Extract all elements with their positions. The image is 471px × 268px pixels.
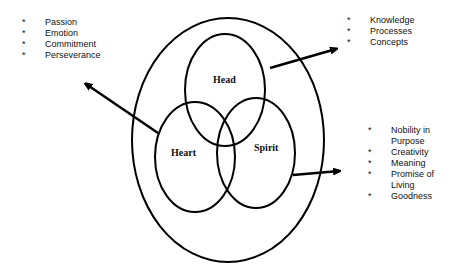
bullet-icon: * <box>368 147 372 158</box>
bullet-icon: * <box>22 50 26 61</box>
bullet-icon: * <box>22 28 26 39</box>
bullet-icon: * <box>347 26 351 37</box>
head-label: Head <box>213 74 236 85</box>
bullet-icon: * <box>368 191 372 202</box>
list-item: *Promise of Living <box>368 169 448 191</box>
list-item: *Meaning <box>368 158 448 169</box>
bullet-icon: * <box>347 37 351 48</box>
heart-traits-list: *Passion *Emotion *Commitment *Persevera… <box>22 17 101 61</box>
head-traits-list: *Knowledge *Processes *Concepts <box>347 15 415 48</box>
list-item: *Nobility in Purpose <box>368 125 448 147</box>
bullet-icon: * <box>368 169 372 180</box>
bullet-icon: * <box>368 125 372 136</box>
head-circle <box>185 34 265 146</box>
list-item: *Passion <box>22 17 101 28</box>
list-item: *Goodness <box>368 191 448 202</box>
bullet-icon: * <box>22 39 26 50</box>
list-item: *Perseverance <box>22 50 101 61</box>
spirit-traits-list: *Nobility in Purpose *Creativity *Meanin… <box>368 125 448 202</box>
outer-ellipse <box>132 18 324 262</box>
arrow-spirit-to-list <box>293 171 339 175</box>
spirit-label: Spirit <box>254 142 278 153</box>
bullet-icon: * <box>347 15 351 26</box>
list-item: *Knowledge <box>347 15 415 26</box>
list-item: *Processes <box>347 26 415 37</box>
arrow-heart-to-list <box>86 84 158 133</box>
list-item: *Commitment <box>22 39 101 50</box>
heart-label: Heart <box>171 147 196 158</box>
list-item: *Concepts <box>347 37 415 48</box>
spirit-circle <box>217 98 295 208</box>
bullet-icon: * <box>368 158 372 169</box>
list-item: *Emotion <box>22 28 101 39</box>
list-item: *Creativity <box>368 147 448 158</box>
bullet-icon: * <box>22 17 26 28</box>
